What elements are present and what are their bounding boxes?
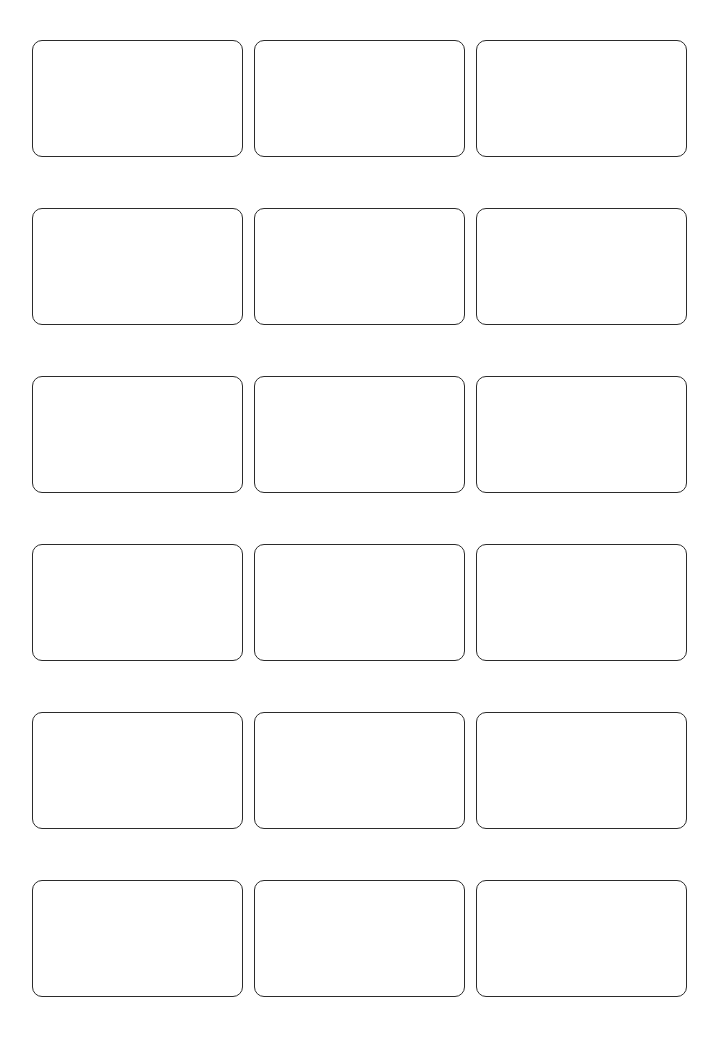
label-card-text	[33, 377, 242, 492]
label-card[interactable]	[254, 376, 465, 493]
label-card[interactable]	[476, 40, 687, 157]
label-card[interactable]	[32, 40, 243, 157]
label-card-text	[33, 881, 242, 996]
label-card[interactable]	[32, 712, 243, 829]
label-card[interactable]	[32, 376, 243, 493]
label-card-text	[477, 545, 686, 660]
label-card[interactable]	[254, 208, 465, 325]
label-card[interactable]	[32, 880, 243, 997]
label-card-text	[33, 209, 242, 324]
label-card-text	[255, 713, 464, 828]
label-card[interactable]	[32, 544, 243, 661]
label-card-text	[477, 881, 686, 996]
label-card[interactable]	[254, 544, 465, 661]
label-card-text	[255, 881, 464, 996]
label-card[interactable]	[476, 376, 687, 493]
label-card[interactable]	[476, 880, 687, 997]
label-card[interactable]	[254, 40, 465, 157]
label-card[interactable]	[476, 712, 687, 829]
label-card[interactable]	[254, 712, 465, 829]
label-card-text	[477, 377, 686, 492]
label-card-text	[33, 545, 242, 660]
label-card-text	[477, 713, 686, 828]
label-card[interactable]	[32, 208, 243, 325]
card-grid	[32, 40, 680, 997]
label-card-text	[255, 41, 464, 156]
label-card-text	[477, 209, 686, 324]
label-card-text	[255, 545, 464, 660]
label-card-text	[33, 713, 242, 828]
label-sheet	[0, 0, 722, 1050]
label-card-text	[255, 377, 464, 492]
label-card[interactable]	[254, 880, 465, 997]
label-card[interactable]	[476, 544, 687, 661]
label-card-text	[255, 209, 464, 324]
label-card-text	[33, 41, 242, 156]
label-card-text	[477, 41, 686, 156]
label-card[interactable]	[476, 208, 687, 325]
